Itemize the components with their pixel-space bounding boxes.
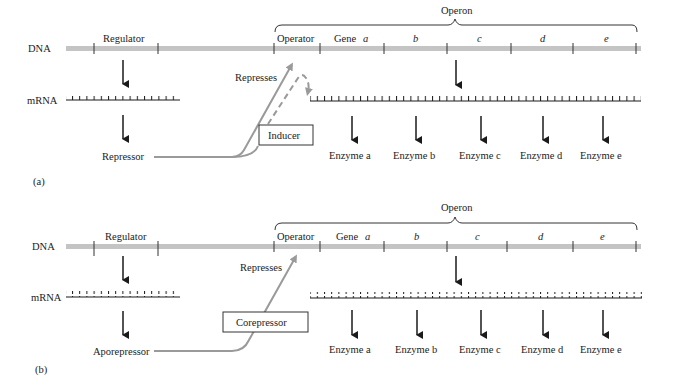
gene-b-label: b (414, 231, 419, 242)
gene-c-label: c (475, 231, 480, 242)
operon-label: Operon (441, 5, 473, 16)
operon-brace (275, 19, 637, 32)
enzyme-d-label: Enzyme d (521, 344, 564, 355)
panel-a: DNA Regulator Operon Operator Gene a b c… (27, 5, 641, 188)
inducer-label: Inducer (268, 130, 301, 141)
dna-label: DNA (28, 43, 51, 54)
dna-label: DNA (32, 241, 55, 252)
mrna-label: mRNA (27, 95, 58, 106)
repressor-label: Repressor (102, 151, 144, 162)
operator-label: Operator (277, 33, 315, 44)
gene-d-label: d (540, 33, 546, 44)
represses-label: Represses (235, 72, 277, 83)
gene-b-label: b (413, 33, 418, 44)
gene-e-label: e (600, 231, 605, 242)
panel-b: DNA Regulator Operon Operator Gene a b c… (31, 202, 642, 376)
enzyme-d-label: Enzyme d (520, 150, 563, 161)
gene-label: Gene (334, 33, 356, 44)
enzyme-b-label: Enzyme b (395, 344, 437, 355)
enzyme-a-label: Enzyme a (329, 150, 371, 161)
operon-diagram: DNA Regulator Operon Operator Gene a b c… (0, 0, 676, 391)
panel-b-label: (b) (35, 364, 48, 376)
gene-c-label: c (477, 33, 482, 44)
regulator-label: Regulator (103, 33, 145, 44)
operon-label: Operon (441, 202, 473, 213)
enzyme-c-label: Enzyme c (459, 344, 501, 355)
enzyme-e-label: Enzyme e (580, 150, 622, 161)
gene-e-label: e (604, 33, 609, 44)
panel-a-label: (a) (33, 176, 45, 188)
gene-a-label: a (363, 33, 368, 44)
enzyme-c-label: Enzyme c (459, 150, 501, 161)
aporepressor-label: Aporepressor (93, 346, 150, 357)
enzyme-e-label: Enzyme e (580, 344, 622, 355)
mrna-label: mRNA (31, 292, 62, 303)
represses-label: Represses (240, 262, 282, 273)
gene-label: Gene (336, 231, 358, 242)
enzyme-a-label: Enzyme a (329, 344, 371, 355)
corepressor-label: Corepressor (236, 317, 287, 328)
enzyme-b-label: Enzyme b (393, 150, 435, 161)
operon-brace (275, 217, 637, 230)
gene-a-label: a (365, 231, 370, 242)
gene-d-label: d (538, 231, 544, 242)
operator-label: Operator (277, 231, 315, 242)
dna-strand (66, 244, 641, 249)
dna-strand (66, 46, 641, 51)
regulator-label: Regulator (105, 231, 147, 242)
